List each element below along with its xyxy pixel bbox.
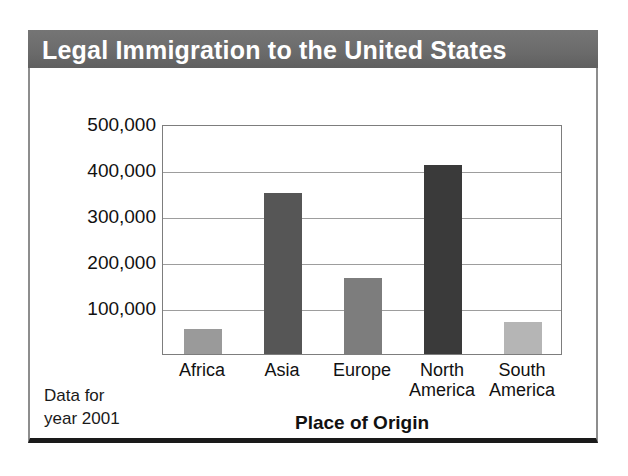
y-tick-label: 500,000 <box>58 114 156 136</box>
chart-figure: Legal Immigration to the United States N… <box>0 0 628 476</box>
x-tick-label: Europe <box>322 360 402 380</box>
bar <box>504 322 542 354</box>
y-tick-label: 300,000 <box>58 206 156 228</box>
x-tick-label: South America <box>482 360 562 400</box>
gridline <box>163 264 561 265</box>
data-year-note: Data for year 2001 <box>44 385 120 431</box>
gridline <box>163 218 561 219</box>
chart-title-banner: Legal Immigration to the United States <box>28 30 598 70</box>
x-tick-label: Asia <box>242 360 322 380</box>
bar <box>344 278 382 354</box>
x-tick-label: Africa <box>162 360 242 380</box>
chart-title: Legal Immigration to the United States <box>42 38 507 63</box>
y-tick-label: 400,000 <box>58 160 156 182</box>
y-tick-label: 200,000 <box>58 252 156 274</box>
bar <box>184 329 222 354</box>
bar <box>264 193 302 354</box>
y-tick-label: 100,000 <box>58 298 156 320</box>
gridline <box>163 172 561 173</box>
bar <box>424 165 462 354</box>
x-axis-title: Place of Origin <box>162 412 562 434</box>
plot-area <box>162 125 562 355</box>
x-tick-label: North America <box>402 360 482 400</box>
